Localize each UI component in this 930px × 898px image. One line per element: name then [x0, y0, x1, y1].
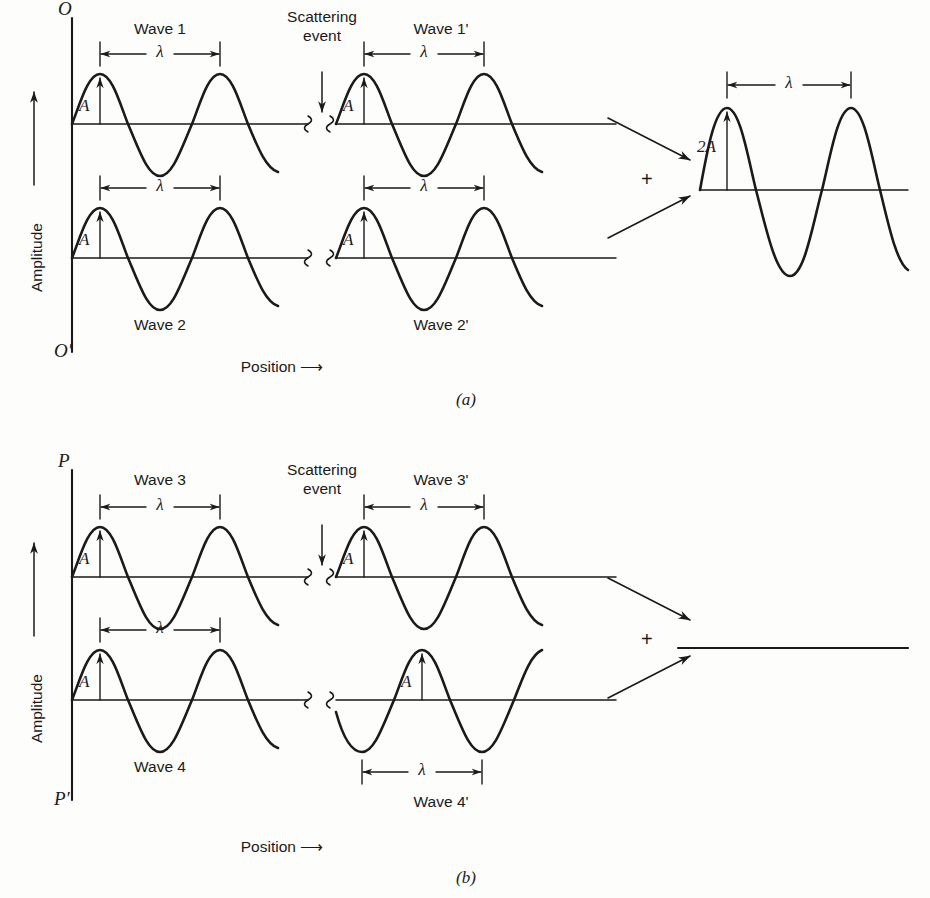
panel-b-amp4-label: A: [79, 672, 89, 691]
panel-b-break-right-row1: [327, 569, 334, 585]
panel-a-wave1p-curve: [336, 74, 542, 176]
panel-a-amp2p-label: A: [343, 230, 353, 249]
panel-a-caption: (a): [456, 390, 476, 409]
panel-a-lambda1p-label: λ: [420, 42, 427, 61]
panel-a-combine-arrow-top: [608, 118, 690, 160]
panel-b-lambda4p-label: λ: [418, 760, 425, 779]
panel-b-amp4p-label: A: [401, 672, 411, 691]
panel-a-axis-top-label: O: [58, 0, 72, 19]
panel-a-x-axis-label: Position ⟶: [241, 358, 323, 375]
panel-a-axis-bottom-label: O′: [54, 340, 72, 361]
panel-a-x-axis-arrow-icon: ⟶: [300, 358, 323, 375]
panel-b-scattering-label-line2: event: [303, 480, 341, 497]
panel-a-y-axis-label: Amplitude: [28, 223, 45, 292]
panel-b-sum-symbol: +: [641, 628, 653, 650]
panel-b-wave3-curve: [72, 527, 278, 629]
panel-b-wave3-label: Wave 3: [134, 471, 186, 488]
panel-a-lambda1-label: λ: [156, 42, 163, 61]
panel-b-wave3p-curve: [336, 527, 542, 629]
panel-b-x-axis-label: Position ⟶: [241, 838, 323, 855]
panel-a-wave1-label: Wave 1: [134, 20, 186, 37]
panel-b-lambda3-label: λ: [156, 495, 163, 514]
panel-b-scattering-label-line1: Scattering: [287, 461, 357, 478]
panel-b-amp3p-label: A: [343, 549, 353, 568]
panel-a-scattering-label-line1: Scattering: [287, 8, 357, 25]
panel-b-wave4p-label: Wave 4': [414, 793, 469, 810]
panel-b-amp3-label: A: [79, 549, 89, 568]
panel-b-break-right-row2: [327, 692, 334, 708]
panel-a-amp2-label: A: [79, 230, 89, 249]
panel-b-combine-arrow-bottom: [608, 656, 690, 698]
panel-b-caption: (b): [456, 868, 476, 887]
panel-a-break-right-row2: [327, 250, 334, 266]
panel-b-x-axis-arrow-icon: ⟶: [300, 838, 323, 855]
panel-a-amp1p-label: A: [343, 96, 353, 115]
panel-a-wave1p-label: Wave 1': [414, 20, 469, 37]
panel-b-axis-top-label: P: [58, 450, 70, 471]
panel-b-x-axis-text: Position: [241, 838, 296, 855]
figure-canvas: O O′ Amplitude Wave 1 Wave 2 Wave 1' Wav…: [0, 0, 930, 898]
panel-a-resultant-lambda-label: λ: [785, 73, 792, 92]
panel-a-lambda2-label: λ: [156, 176, 163, 195]
panel-a-lambda2p-label: λ: [420, 176, 427, 195]
panel-a-wave2-label: Wave 2: [134, 316, 186, 333]
panel-a-combine-arrow-bottom: [608, 196, 690, 238]
panel-a-wave2-curve: [72, 208, 278, 310]
panel-b-combine-arrow-top: [608, 578, 690, 620]
panel-a-wave2p-label: Wave 2': [414, 316, 469, 333]
panel-b-wave4-curve: [72, 650, 278, 752]
panel-b-lambda4-label: λ: [156, 618, 163, 637]
panel-a-wave2p-curve: [336, 208, 542, 310]
panel-a-sum-symbol: +: [641, 168, 653, 190]
panel-b-lambda3p-label: λ: [420, 495, 427, 514]
panel-a-amp1-label: A: [79, 96, 89, 115]
panel-a-break-right-row1: [327, 116, 334, 132]
panel-a-wave1-curve: [72, 74, 278, 176]
panel-b-wave4p-curve: [336, 650, 542, 752]
panel-a-scattering-label-line2: event: [303, 27, 341, 44]
panel-b-wave3p-label: Wave 3': [414, 471, 469, 488]
panel-a-resultant-curve: [700, 108, 908, 276]
panel-a-x-axis-text: Position: [241, 358, 296, 375]
panel-b-axis-bottom-label: P′: [54, 788, 70, 809]
panel-a-resultant-2a-label: 2A: [697, 137, 716, 156]
panel-b-y-axis-label: Amplitude: [28, 674, 45, 743]
panel-b-wave4-label: Wave 4: [134, 758, 186, 775]
